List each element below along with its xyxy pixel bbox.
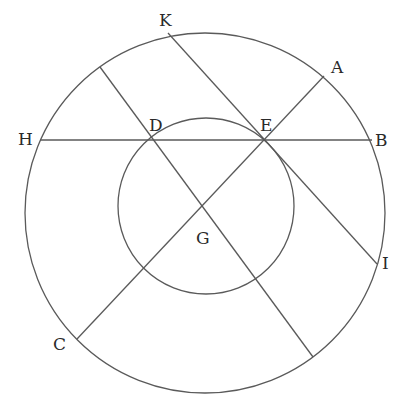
geometry-diagram: K A H D E B G I C (0, 0, 411, 413)
line-through-d-g (100, 67, 313, 357)
label-k: K (159, 10, 172, 30)
label-i: I (382, 253, 389, 273)
label-g: G (196, 228, 210, 248)
label-a: A (330, 57, 344, 77)
label-b: B (375, 130, 388, 150)
label-c: C (53, 334, 66, 354)
line-ac (77, 76, 324, 339)
label-h: H (18, 129, 33, 149)
label-e: E (260, 115, 272, 135)
labels-group: K A H D E B G I C (18, 10, 389, 354)
lines-group (40, 33, 377, 357)
label-d: D (149, 115, 163, 135)
